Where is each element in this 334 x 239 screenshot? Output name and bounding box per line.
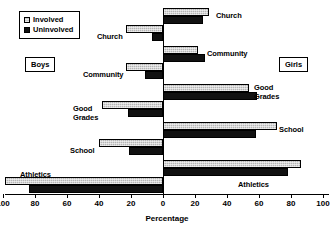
label-boys-school: School (70, 147, 94, 156)
label-boys-community: Community (83, 71, 123, 80)
x-tick-40-3 (99, 194, 100, 198)
x-tick-label-0-5: 0 (161, 199, 165, 208)
bar-boys-school-involved (99, 139, 163, 147)
label-boys-church: Church (97, 33, 123, 42)
legend-swatch-involved-icon (24, 17, 30, 23)
bar-girls-good-grades-involved (163, 84, 249, 92)
group-label-boys: Boys (25, 57, 55, 72)
bar-girls-community-involved (163, 46, 198, 54)
bar-girls-school-involved (163, 122, 277, 130)
legend-label-uninvolved: Uninvolved (33, 25, 73, 35)
bar-girls-church-uninvolved (163, 16, 203, 24)
legend: Involved Uninvolved (19, 11, 80, 39)
legend-label-involved: Involved (33, 15, 63, 25)
x-tick-60-8 (259, 194, 260, 198)
label-girls-grades: Grades (254, 93, 279, 102)
x-tick-100-0 (3, 194, 4, 198)
x-tick-0-5 (163, 194, 164, 198)
x-tick-80-9 (291, 194, 292, 198)
x-tick-label-40-3: 40 (95, 199, 104, 208)
bar-boys-church-involved (126, 25, 163, 33)
x-tick-100-10 (323, 194, 324, 198)
bar-boys-community-involved (126, 63, 163, 71)
x-tick-label-40-7: 40 (223, 199, 232, 208)
bar-boys-good-grades-uninvolved (128, 109, 163, 117)
label-girls-community: Community (207, 50, 247, 59)
group-label-girls: Girls (279, 57, 308, 72)
x-tick-label-20-6: 20 (191, 199, 200, 208)
x-tick-label-60-2: 60 (63, 199, 72, 208)
x-tick-40-7 (227, 194, 228, 198)
bar-boys-athletics-uninvolved (29, 185, 163, 193)
label-girls-church: Church (216, 12, 242, 21)
legend-item-involved: Involved (24, 15, 73, 25)
bar-girls-community-uninvolved (163, 54, 205, 62)
x-tick-label-80-1: 80 (31, 199, 40, 208)
x-tick-label-60-8: 60 (255, 199, 264, 208)
bar-girls-church-involved (163, 8, 209, 16)
label-girls-athletics: Athletics (238, 181, 269, 190)
label-girls-school: School (279, 126, 303, 135)
bar-boys-church-uninvolved (152, 33, 163, 41)
x-tick-label-100-10: 100 (316, 199, 329, 208)
x-tick-20-4 (131, 194, 132, 198)
bar-girls-athletics-involved (163, 160, 301, 168)
bar-girls-athletics-uninvolved (163, 168, 288, 176)
label-boys-grades: Grades (73, 114, 98, 123)
legend-swatch-uninvolved-icon (24, 27, 30, 33)
x-axis-title: Percentage (0, 214, 334, 223)
x-tick-label-80-9: 80 (287, 199, 296, 208)
label-boys-athletics: Athletics (20, 171, 51, 180)
bar-boys-community-uninvolved (145, 71, 163, 79)
bar-boys-good-grades-involved (102, 101, 163, 109)
x-axis-line (5, 194, 329, 195)
x-tick-80-1 (35, 194, 36, 198)
bar-girls-school-uninvolved (163, 130, 256, 138)
legend-item-uninvolved: Uninvolved (24, 25, 73, 35)
grouped-bar-chart: Church Community Good Grades School Athl… (0, 0, 334, 239)
bar-boys-school-uninvolved (129, 147, 163, 155)
x-tick-60-2 (67, 194, 68, 198)
x-tick-20-6 (195, 194, 196, 198)
x-tick-label-100-0: 100 (0, 199, 10, 208)
x-tick-label-20-4: 20 (127, 199, 136, 208)
bar-girls-good-grades-uninvolved (163, 92, 257, 100)
